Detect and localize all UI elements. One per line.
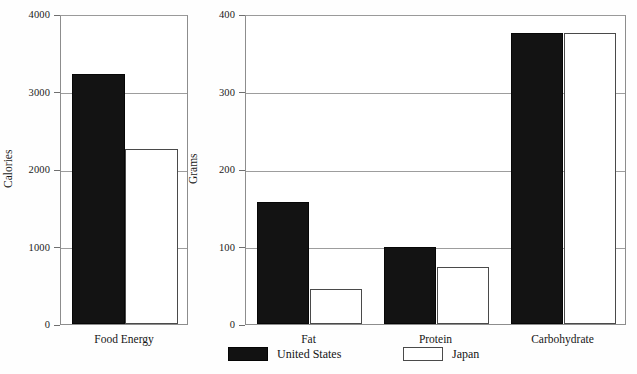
y-axis-tick-label: 100	[189, 243, 235, 254]
y-axis-tick-label: 300	[189, 88, 235, 99]
legend-swatch-japan	[403, 347, 443, 361]
y-axis-tick-mark	[239, 170, 245, 171]
bar-carbohydrate-japan	[564, 33, 617, 324]
x-axis-category-label: Fat	[245, 334, 372, 346]
legend-item-united-states: United States	[228, 345, 341, 363]
bar-carbohydrate-united-states	[511, 33, 564, 324]
y-axis-tick-mark	[239, 15, 245, 16]
chart-panel-macronutrients: Grams 0100200300400FatProteinCarbohydrat…	[0, 0, 637, 374]
legend-swatch-united-states	[228, 347, 268, 361]
y-axis-tick-mark	[239, 92, 245, 93]
y-axis-tick-label: 400	[189, 10, 235, 21]
y-axis-tick-mark	[239, 247, 245, 248]
bar-chart-figure: Calories 01000200030004000Food Energy Gr…	[0, 0, 637, 374]
legend-item-japan: Japan	[403, 345, 479, 363]
bar-fat-japan	[310, 289, 363, 324]
y-axis-tick-label: 0	[189, 320, 235, 331]
bar-protein-japan	[437, 267, 490, 324]
bar-protein-united-states	[384, 247, 437, 325]
x-axis-category-label: Protein	[372, 334, 499, 346]
legend-label-japan: Japan	[452, 348, 479, 360]
legend-label-united-states: United States	[277, 348, 341, 360]
bar-fat-united-states	[257, 202, 310, 324]
y-axis-tick-label: 200	[189, 165, 235, 176]
x-axis-category-label: Carbohydrate	[499, 334, 626, 346]
chart-legend: United States Japan	[0, 345, 637, 367]
plot-area-macronutrients	[245, 15, 626, 325]
y-axis-tick-mark	[239, 325, 245, 326]
